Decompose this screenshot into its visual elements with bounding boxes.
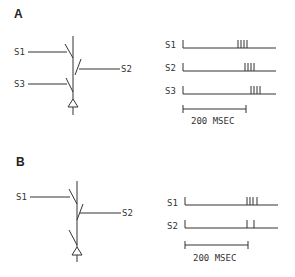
trace-s2-baseline: [185, 220, 278, 228]
panel-a: A S1 S2 S3 S1 S2: [14, 7, 276, 126]
spike-traces-a: S1 S2 S3 200 MSEC: [165, 40, 276, 126]
input-s2-label: S2: [122, 208, 133, 218]
trace-s2-spikes: [245, 63, 254, 71]
neuron-diagram-b: S1 S2: [16, 181, 133, 262]
trace-s1-spikes: [247, 197, 257, 205]
scale-bar-a-label: 200 MSEC: [191, 116, 234, 126]
figure: A S1 S2 S3 S1 S2: [0, 0, 295, 277]
synapse-s2: [77, 204, 83, 220]
synapse-s2: [75, 59, 81, 75]
input-s1-label: S1: [16, 192, 27, 202]
soma-triangle-icon: [72, 247, 82, 255]
synapse-s1: [69, 189, 77, 204]
synapse-s3: [66, 78, 73, 92]
trace-s2-label: S2: [167, 221, 178, 231]
input-s2-label: S2: [121, 64, 132, 74]
trace-s3-label: S3: [165, 86, 176, 96]
scale-bar-a: [183, 105, 246, 113]
trace-s2-baseline: [183, 63, 276, 71]
scale-bar-b: [185, 241, 248, 249]
scale-bar-b-label: 200 MSEC: [193, 253, 236, 263]
input-s3-label: S3: [14, 79, 25, 89]
synapse-s1: [65, 44, 73, 58]
trace-s1-baseline: [183, 40, 276, 48]
spike-traces-b: S1 S2 200 MSEC: [167, 197, 278, 263]
synapse-unconnected: [69, 230, 77, 245]
neuron-diagram-a: S1 S2 S3: [14, 36, 132, 115]
panel-b: B S1 S2 S1 S2: [16, 155, 278, 263]
trace-s1-baseline: [185, 197, 278, 205]
trace-s2-label: S2: [165, 63, 176, 73]
panel-a-label: A: [14, 7, 23, 21]
trace-s1-label: S1: [167, 198, 178, 208]
trace-s1-label: S1: [165, 40, 176, 50]
trace-s3-baseline: [183, 86, 276, 94]
input-s1-label: S1: [14, 47, 25, 57]
trace-s3-spikes: [251, 86, 260, 94]
panel-b-label: B: [16, 155, 25, 169]
soma-triangle-icon: [68, 99, 78, 107]
trace-s2-spikes: [247, 220, 254, 228]
trace-s1-spikes: [238, 40, 247, 48]
